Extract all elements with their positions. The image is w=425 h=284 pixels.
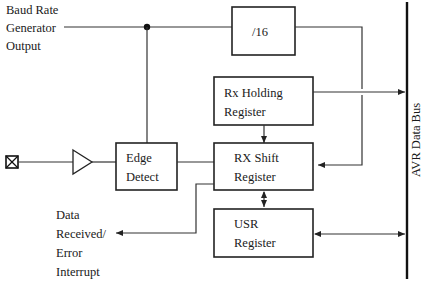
svg-text:/16: /16 bbox=[252, 25, 268, 39]
svg-text:Interrupt: Interrupt bbox=[56, 265, 100, 279]
svg-text:Rx Holding: Rx Holding bbox=[224, 86, 283, 100]
crossed-box-pin-icon bbox=[6, 156, 18, 168]
svg-text:Detect: Detect bbox=[126, 170, 159, 184]
usr-register-block: USR Register bbox=[214, 209, 313, 257]
rx-holding-register-block: Rx Holding Register bbox=[214, 77, 313, 125]
svg-text:Baud Rate: Baud Rate bbox=[6, 3, 59, 17]
svg-text:Generator: Generator bbox=[6, 21, 57, 35]
svg-text:USR: USR bbox=[234, 217, 259, 231]
svg-text:Received/: Received/ bbox=[56, 227, 107, 241]
edge-detect-block: Edge Detect bbox=[116, 143, 177, 190]
baud-rate-label: Baud Rate Generator Output bbox=[6, 3, 59, 53]
svg-text:Register: Register bbox=[234, 236, 276, 250]
svg-text:Edge: Edge bbox=[126, 151, 152, 165]
svg-text:Error: Error bbox=[56, 246, 83, 260]
svg-text:Register: Register bbox=[234, 170, 276, 184]
svg-text:Data: Data bbox=[56, 208, 80, 222]
divider-block: /16 bbox=[232, 7, 295, 55]
interrupt-label: Data Received/ Error Interrupt bbox=[56, 208, 107, 279]
svg-text:Register: Register bbox=[224, 105, 266, 119]
svg-text:Output: Output bbox=[6, 39, 41, 53]
uart-receiver-diagram: Baud Rate Generator Output /16 Rx Holdin… bbox=[0, 0, 425, 284]
avr-data-bus-label: AVR Data Bus bbox=[409, 103, 423, 177]
interrupt-line bbox=[116, 184, 214, 233]
triangle-buffer-icon bbox=[73, 150, 92, 174]
svg-text:RX Shift: RX Shift bbox=[234, 151, 279, 165]
rx-shift-register-block: RX Shift Register bbox=[214, 143, 313, 190]
